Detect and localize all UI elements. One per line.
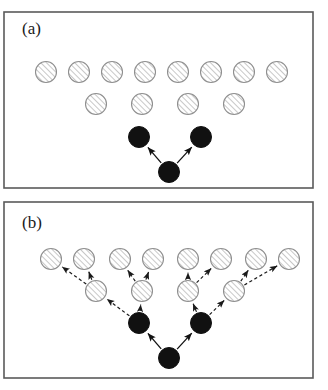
- hatched-node-circle: [86, 281, 107, 302]
- hatched-node-circle: [41, 249, 62, 270]
- hatched-node-circle: [201, 62, 222, 83]
- hatched-node-circle: [143, 249, 164, 270]
- figure-background: [0, 0, 328, 390]
- solid-node-circle: [159, 162, 180, 183]
- figure-root: (a) (b): [0, 0, 328, 390]
- hatched-node-circle: [135, 62, 156, 83]
- hatched-node-circle: [102, 62, 123, 83]
- hatched-node-circle: [279, 249, 300, 270]
- hatched-node-circle: [168, 62, 189, 83]
- hatched-node-circle: [132, 94, 153, 115]
- hatched-node-circle: [178, 94, 199, 115]
- hatched-node-circle: [246, 249, 267, 270]
- cascade-diagram: (a) (b): [0, 0, 328, 390]
- hatched-node-circle: [74, 249, 95, 270]
- panel-b-label: (b): [22, 213, 42, 232]
- hatched-node-circle: [178, 249, 199, 270]
- hatched-node-circle: [211, 249, 232, 270]
- solid-node-circle: [129, 313, 150, 334]
- hatched-node-circle: [267, 62, 288, 83]
- hatched-node-circle: [69, 62, 90, 83]
- hatched-node-circle: [86, 94, 107, 115]
- hatched-node-circle: [178, 281, 199, 302]
- hatched-node-circle: [132, 281, 153, 302]
- solid-node-circle: [191, 127, 212, 148]
- solid-node-circle: [159, 348, 180, 369]
- hatched-node-circle: [224, 281, 245, 302]
- solid-node-circle: [191, 313, 212, 334]
- hatched-node-circle: [110, 249, 131, 270]
- hatched-node-circle: [36, 62, 57, 83]
- solid-node-circle: [129, 127, 150, 148]
- panel-a-label: (a): [22, 19, 41, 38]
- hatched-node-circle: [224, 94, 245, 115]
- hatched-node-circle: [234, 62, 255, 83]
